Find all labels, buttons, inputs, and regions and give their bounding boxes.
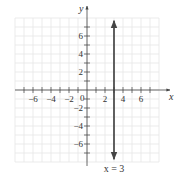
x-axis-label: x (168, 91, 174, 102)
coordinate-plane: −6−4−2246−6−4−2246 x y 0 x = 3 (0, 0, 177, 182)
y-tick-label: 6 (79, 31, 84, 41)
line-equation-label: x = 3 (104, 163, 125, 174)
y-tick-label: −4 (73, 121, 83, 131)
x-tick-label: −2 (64, 94, 74, 104)
y-axis-label: y (78, 3, 84, 14)
y-tick-label: 2 (79, 67, 84, 77)
x-tick-label: −6 (28, 94, 38, 104)
y-tick-label: −6 (73, 139, 83, 149)
axes (15, 6, 170, 166)
x-tick-label: 6 (139, 94, 144, 104)
x-tick-label: −4 (46, 94, 56, 104)
x-tick-label: 4 (121, 94, 126, 104)
origin-label: 0 (80, 93, 85, 103)
x-tick-label: 2 (103, 94, 108, 104)
y-tick-label: 4 (79, 49, 84, 59)
y-tick-label: −2 (73, 103, 83, 113)
